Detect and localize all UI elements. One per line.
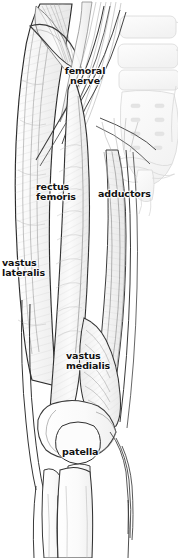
- thigh-anatomy-illustration: [0, 0, 178, 558]
- anatomy-figure: femoralnerve rectusfemoris adductors vas…: [0, 0, 178, 558]
